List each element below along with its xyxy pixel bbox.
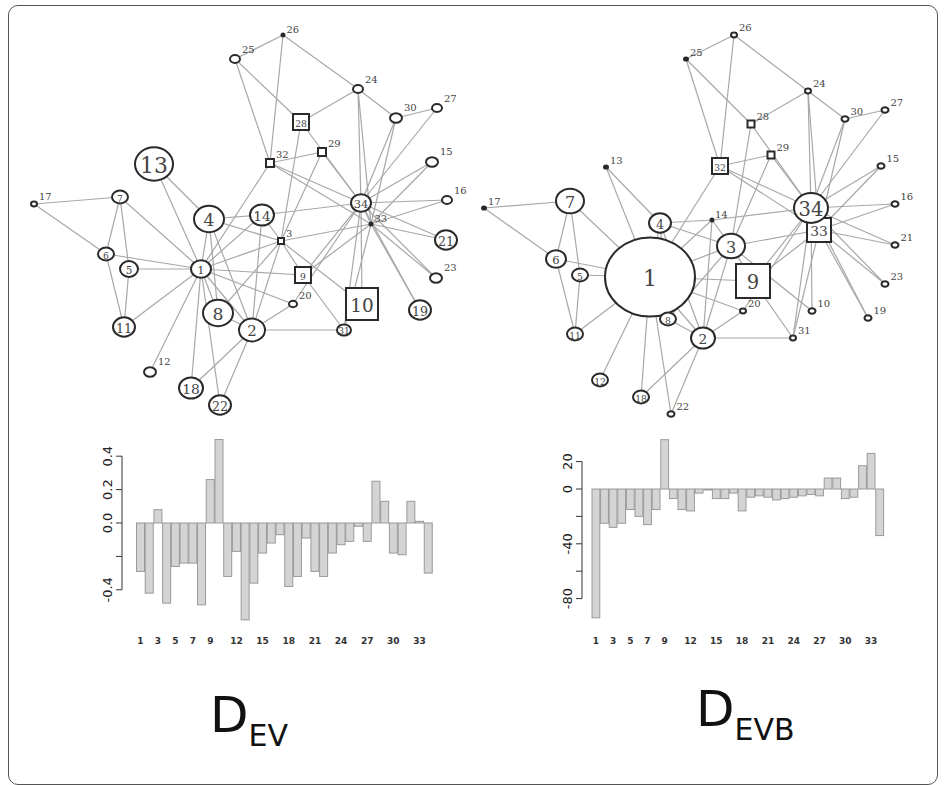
node-label: 26 bbox=[287, 24, 300, 35]
graph-node-32: 32 bbox=[266, 149, 289, 167]
graph-node-26: 26 bbox=[282, 24, 300, 37]
graph-edge bbox=[361, 200, 447, 203]
node-label: 32 bbox=[276, 149, 289, 160]
node-circle-shape bbox=[865, 315, 872, 321]
node-label: 17 bbox=[39, 191, 52, 202]
graph-node-31: 31 bbox=[790, 325, 811, 340]
graph-node-23: 23 bbox=[430, 262, 457, 283]
node-label: 23 bbox=[891, 271, 904, 282]
graph-node-28: 28 bbox=[293, 114, 309, 130]
y-tick-label: 20 bbox=[560, 453, 575, 470]
graph-node-2: 2 bbox=[239, 319, 265, 342]
node-label: 23 bbox=[444, 262, 457, 273]
x-tick-label: 24 bbox=[787, 636, 800, 646]
bar-21 bbox=[764, 489, 772, 497]
bar-13 bbox=[241, 523, 249, 620]
graph-edge bbox=[106, 197, 120, 254]
graph-edge bbox=[270, 35, 283, 163]
node-square-shape bbox=[768, 152, 775, 159]
node-label: 8 bbox=[665, 315, 671, 326]
node-label: 29 bbox=[328, 138, 341, 149]
x-tick-label: 27 bbox=[361, 636, 374, 646]
node-circle-shape bbox=[390, 113, 402, 123]
x-tick-label: 3 bbox=[610, 636, 616, 646]
node-square-shape bbox=[748, 121, 755, 128]
graph-node-18: 18 bbox=[633, 391, 649, 404]
bar-10 bbox=[669, 489, 677, 499]
right-network-graph: 1234567891011121314151617181920212223242… bbox=[482, 22, 913, 417]
right-edges bbox=[484, 35, 895, 414]
bar-26 bbox=[355, 523, 363, 526]
x-tick-label: 3 bbox=[155, 636, 161, 646]
node-circle-shape bbox=[882, 281, 889, 287]
graph-edge bbox=[641, 338, 703, 397]
bar-13 bbox=[695, 489, 703, 493]
graph-node-28: 28 bbox=[748, 111, 770, 128]
bar-22 bbox=[320, 523, 328, 576]
node-label: 30 bbox=[851, 106, 864, 117]
node-circle-shape bbox=[432, 104, 442, 112]
node-label: 15 bbox=[440, 146, 453, 157]
graph-node-1: 1 bbox=[191, 260, 211, 278]
graph-edge bbox=[201, 269, 220, 405]
node-circle-shape bbox=[282, 34, 285, 37]
node-label: 20 bbox=[748, 298, 761, 309]
graph-edge bbox=[575, 275, 580, 334]
graph-node-21: 21 bbox=[892, 232, 914, 248]
node-label: 22 bbox=[677, 401, 690, 412]
bar-7 bbox=[189, 523, 197, 563]
x-tick-label: 24 bbox=[335, 636, 348, 646]
bar-16 bbox=[721, 489, 729, 499]
graph-node-13: 13 bbox=[604, 155, 623, 169]
graph-node-24: 24 bbox=[805, 78, 826, 93]
bar-5 bbox=[626, 489, 634, 510]
node-label: 7 bbox=[565, 193, 575, 212]
node-label: 28 bbox=[295, 118, 307, 129]
y-tick-label: 0 bbox=[560, 485, 575, 493]
node-label: 20 bbox=[299, 290, 312, 301]
node-label: 10 bbox=[350, 295, 373, 316]
node-label: 3 bbox=[726, 238, 736, 257]
x-tick-label: 27 bbox=[813, 636, 826, 646]
bar-10 bbox=[215, 440, 223, 524]
y-tick-label: -40 bbox=[560, 533, 575, 554]
right-bars bbox=[592, 440, 884, 618]
bar-25 bbox=[346, 523, 354, 541]
bar-30 bbox=[389, 523, 397, 553]
graph-edge bbox=[124, 269, 201, 327]
node-label: 1 bbox=[197, 263, 204, 277]
bar-19 bbox=[747, 489, 755, 497]
bar-17 bbox=[730, 489, 738, 493]
node-label: 27 bbox=[444, 93, 457, 104]
bar-4 bbox=[163, 523, 171, 603]
node-label: 11 bbox=[569, 330, 581, 341]
bar-23 bbox=[328, 523, 336, 553]
left-network-graph: 1234567891011121314151617181920212223242… bbox=[31, 24, 467, 415]
graph-node-29: 29 bbox=[768, 142, 790, 159]
graph-node-24: 24 bbox=[353, 74, 378, 93]
node-label: 27 bbox=[891, 97, 904, 108]
graph-edge bbox=[120, 197, 129, 269]
node-label: 17 bbox=[488, 196, 501, 207]
x-tick-label: 12 bbox=[684, 636, 697, 646]
graph-node-4: 4 bbox=[194, 206, 224, 232]
node-label: 21 bbox=[438, 234, 454, 249]
y-tick-label: 0.2 bbox=[100, 479, 115, 500]
bar-4 bbox=[618, 489, 626, 523]
left-caption-sub: EV bbox=[249, 718, 288, 753]
node-label: 9 bbox=[747, 271, 759, 294]
x-tick-label: 5 bbox=[627, 636, 633, 646]
y-tick-label: -0.4 bbox=[100, 577, 115, 602]
graph-node-25: 25 bbox=[230, 44, 255, 63]
bar-23 bbox=[781, 489, 789, 499]
node-circle-shape bbox=[230, 55, 240, 63]
node-label: 10 bbox=[818, 298, 831, 309]
bar-2 bbox=[145, 523, 153, 593]
graph-node-11: 11 bbox=[113, 317, 135, 336]
graph-node-9: 9 bbox=[295, 267, 311, 283]
node-label: 13 bbox=[610, 155, 623, 166]
bar-14 bbox=[250, 523, 258, 583]
node-label: 29 bbox=[777, 142, 790, 153]
left-bar-chart: -0.40.00.20.4135791215182124273033 bbox=[100, 440, 432, 647]
